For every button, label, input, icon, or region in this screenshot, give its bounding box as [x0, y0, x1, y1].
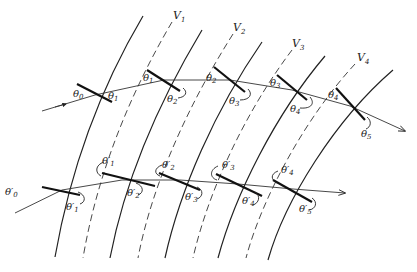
- upper-theta-4-out: θ4: [290, 103, 301, 116]
- label-v3: V3: [292, 37, 305, 52]
- upper-theta-2-out: θ2: [167, 93, 178, 106]
- midline-v2: [138, 34, 233, 258]
- lower-theta-2-out: θ′2: [127, 187, 140, 200]
- lower-ray: θ′0 θ′1 θ′1 θ′2 θ′2 θ′3 θ′3 θ′4 θ′4 θ′5: [5, 155, 345, 216]
- diagram-canvas: V1 V2 V3 V4 θ0 θ1 θ1 θ2 θ2 θ3 θ3 θ4 θ4 θ…: [0, 0, 417, 272]
- lower-theta-5: θ′5: [299, 203, 312, 216]
- upper-theta-2-in: θ2: [206, 72, 217, 85]
- lower-theta-0: θ′0: [5, 186, 18, 199]
- upper-normal-5: [336, 88, 365, 120]
- upper-ray-direction-arrow: [55, 104, 66, 107]
- upper-normal-3: [214, 67, 245, 92]
- lower-normal-4: [216, 174, 262, 196]
- upper-theta-0: θ0: [73, 88, 84, 101]
- upper-theta-3-in: θ3: [270, 77, 281, 90]
- lower-theta-1-in: θ′1: [102, 155, 115, 168]
- midline-v4: [246, 64, 355, 258]
- lower-theta-1-out: θ′1: [66, 201, 79, 214]
- lower-theta-3-in: θ′3: [222, 159, 235, 172]
- boundary-1: [110, 30, 202, 258]
- upper-theta-3-out: θ3: [229, 95, 240, 108]
- lower-ray-path: [15, 180, 345, 213]
- upper-normal-4: [277, 75, 307, 100]
- label-v4: V4: [357, 51, 369, 66]
- refraction-diagram: V1 V2 V3 V4 θ0 θ1 θ1 θ2 θ2 θ3 θ3 θ4 θ4 θ…: [0, 0, 417, 272]
- velocity-labels: V1 V2 V3 V4: [173, 9, 369, 66]
- lower-normal-2: [102, 173, 155, 186]
- upper-curl-3: [240, 89, 250, 100]
- lower-theta-4-in: θ′4: [281, 164, 294, 177]
- boundary-2: [165, 42, 262, 258]
- label-v1: V1: [173, 9, 185, 24]
- lower-theta-3-out: θ′3: [185, 191, 198, 204]
- upper-theta-5: θ5: [361, 128, 372, 141]
- lower-curl-3a: [212, 166, 219, 180]
- lower-normal-3: [159, 173, 200, 190]
- lower-theta-2-in: θ′2: [162, 159, 175, 172]
- label-v2: V2: [233, 21, 246, 36]
- layer-midlines: [83, 22, 355, 258]
- midline-v1: [83, 22, 172, 258]
- boundary-0: [55, 16, 143, 257]
- lower-theta-4-out: θ′4: [242, 195, 255, 208]
- layer-boundaries: [55, 16, 393, 260]
